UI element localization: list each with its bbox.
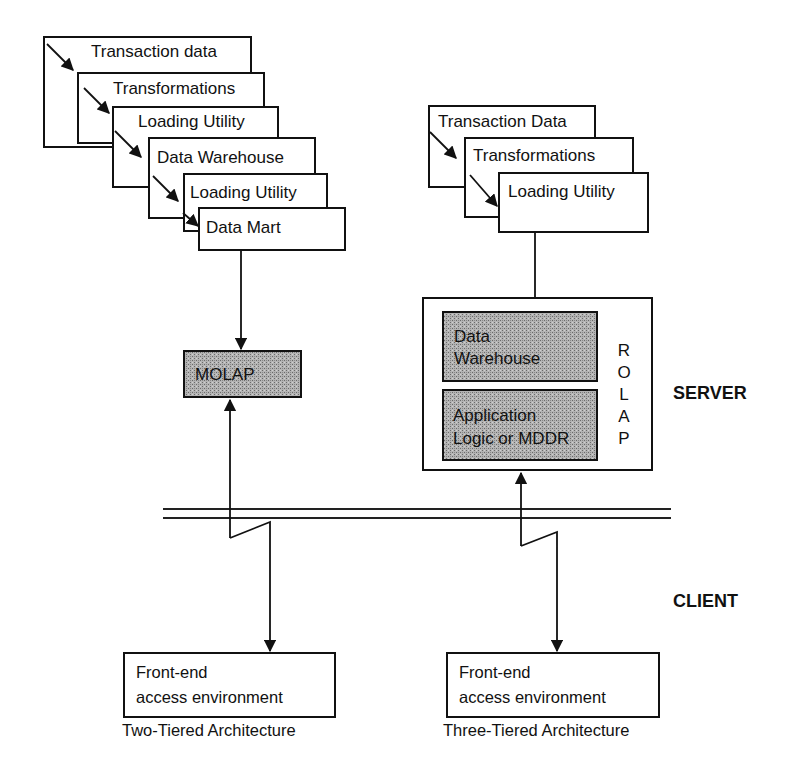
client-box-line2: access environment — [136, 688, 283, 706]
application-logic-line1: Application — [453, 406, 536, 425]
network-divider — [163, 509, 671, 518]
data-warehouse-line1: Data — [454, 327, 490, 346]
svg-text:R: R — [618, 341, 630, 360]
svg-text:L: L — [619, 385, 628, 404]
rolap-server-group: Data Warehouse Application Logic or MDDR… — [423, 298, 652, 470]
stack-box-label: Transaction Data — [438, 112, 567, 131]
stack-box-label: Transaction data — [91, 42, 218, 61]
molap-label: MOLAP — [195, 365, 255, 384]
stack-box-data-mart: Data Mart — [199, 208, 345, 250]
architecture-diagram: Transaction data Transformations Loading… — [0, 0, 792, 778]
two-tier-stack: Transaction data Transformations Loading… — [44, 37, 345, 250]
client-box-line2: access environment — [459, 688, 606, 706]
svg-text:O: O — [617, 363, 630, 382]
stack-box-label: Data Warehouse — [157, 148, 284, 167]
three-tier-caption: Three-Tiered Architecture — [443, 721, 629, 739]
two-tier-caption: Two-Tiered Architecture — [122, 721, 296, 739]
svg-text:P: P — [618, 429, 629, 448]
stack-box-loading-utility: Loading Utility — [499, 173, 648, 232]
stack-box-label: Loading Utility — [190, 183, 297, 202]
application-logic-line2: Logic or MDDR — [453, 429, 569, 448]
stack-box-label: Loading Utility — [508, 182, 615, 201]
application-logic-box: Application Logic or MDDR — [443, 390, 597, 460]
two-tier-network-link — [230, 400, 270, 651]
three-tier-stack: Transaction Data Transformations Loading… — [429, 106, 648, 232]
server-label: SERVER — [673, 383, 747, 403]
rolap-vertical-label: R O L A P — [617, 341, 630, 448]
client-box-line1: Front-end — [136, 663, 208, 681]
three-tier-network-link — [521, 473, 557, 651]
stack-box-label: Transformations — [473, 146, 595, 165]
two-tier-client-box: Front-end access environment — [124, 653, 335, 717]
stack-box-label: Data Mart — [206, 218, 281, 237]
client-box-line1: Front-end — [459, 663, 531, 681]
svg-text:A: A — [618, 407, 630, 426]
data-warehouse-box: Data Warehouse — [443, 312, 597, 381]
stack-box-label: Transformations — [113, 79, 235, 98]
client-label: CLIENT — [673, 591, 738, 611]
data-warehouse-line2: Warehouse — [454, 349, 540, 368]
three-tier-client-box: Front-end access environment — [447, 653, 659, 717]
stack-box-label: Loading Utility — [138, 112, 245, 131]
molap-box: MOLAP — [184, 351, 301, 397]
